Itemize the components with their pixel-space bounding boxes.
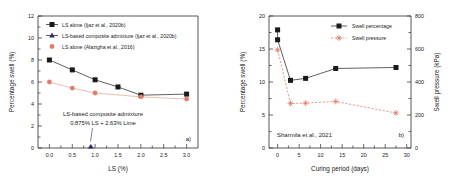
legend-label-ls-alone-alazigha: LS alone (Alazigha et al., 2016) (62, 44, 135, 50)
data-point-marker (275, 27, 280, 32)
annotation-line-2: 0.875% LS + 2.63% Lime (70, 120, 136, 126)
panel-a-yaxis-label: Percentage swell (%) (8, 52, 16, 112)
data-point-marker (116, 84, 121, 89)
panel-a-series-ls-alone-ijaz (47, 58, 189, 98)
panel-b-xtick-30: 30 (404, 152, 410, 158)
data-point-marker (303, 100, 309, 106)
data-point-marker (288, 100, 294, 106)
panel-b-y2tick-400: 400 (415, 79, 424, 85)
panel-a-xtick-3: 1.5 (114, 152, 122, 158)
data-point-marker (333, 66, 338, 71)
panel-b-label: b) (399, 132, 404, 138)
panel-b-ytick-0: 0 (262, 145, 265, 151)
panel-a: 0 2 4 6 8 10 12 (0, 0, 229, 187)
panel-a-xtick-5: 2.5 (160, 152, 168, 158)
panel-b-xtick-10: 10 (318, 152, 324, 158)
legend-marker-circle (50, 44, 55, 49)
data-point-marker (288, 78, 293, 83)
panel-a-xaxis-label: LS (%) (108, 165, 128, 173)
panel-b-xtick-15: 15 (339, 152, 345, 158)
panel-b-y2tick-200: 200 (415, 112, 424, 118)
data-point-marker (139, 94, 144, 99)
legend-marker-star (336, 35, 342, 41)
panel-b-y2tick-800: 800 (415, 13, 424, 19)
legend-marker-square (337, 24, 342, 29)
panel-b-series-swell-pressure (275, 47, 399, 116)
panel-a-series-composite-admixture (88, 144, 94, 149)
data-point-marker (394, 65, 399, 70)
data-point-marker (275, 37, 280, 42)
panel-a-ytick-4: 4 (31, 101, 34, 107)
legend-label-swell-pressure: Swell pressure (352, 35, 386, 41)
panel-a-xtick-6: 3.0 (183, 152, 191, 158)
panel-b-y2tick-600: 600 (415, 46, 424, 52)
panel-a-ytick-10: 10 (28, 35, 34, 41)
panel-b-svg: 0 5 10 15 20 0 200 400 600 (229, 0, 459, 187)
legend-label-swell-percentage: Swell percentage (352, 23, 392, 29)
figure-container: 0 2 4 6 8 10 12 (0, 0, 459, 187)
data-point-marker (88, 144, 94, 149)
panel-b-ytick-15: 15 (259, 46, 265, 52)
panel-a-ytick-8: 8 (31, 57, 34, 63)
panel-a-ytick-6: 6 (31, 79, 34, 85)
panel-a-series-ls-alone-alazigha (47, 80, 189, 102)
annotation-line-1: LS-based composite admixture (63, 111, 143, 117)
panel-b-y-ticks-left: 0 5 10 15 20 (259, 13, 273, 151)
data-point-marker (303, 76, 308, 81)
panel-a-xtick-1: 0.5 (69, 152, 77, 158)
panel-b-ytick-20: 20 (259, 13, 265, 19)
data-point-marker (184, 92, 189, 97)
legend-label-composite-admixture: LS-based composite admixture (Ijaz et al… (62, 33, 177, 39)
panel-b-x-ticks: 0 5 10 15 20 25 30 (276, 144, 410, 158)
panel-a-xtick-2: 1.0 (91, 152, 99, 158)
data-point-marker (70, 86, 75, 91)
panel-b-xaxis-label: Curing period (days) (311, 165, 369, 173)
panel-b: 0 5 10 15 20 0 200 400 600 (229, 0, 459, 187)
panel-b-xtick-25: 25 (382, 152, 388, 158)
panel-a-ytick-12: 12 (28, 13, 34, 19)
data-point-marker (184, 97, 189, 102)
data-point-marker (70, 67, 75, 72)
panel-b-y-ticks-right: 0 200 400 600 800 (407, 13, 424, 151)
panel-a-annotation: LS-based composite admixture 0.875% LS +… (63, 111, 143, 142)
legend-marker-square (50, 22, 55, 27)
panel-b-y2tick-0: 0 (415, 145, 418, 151)
panel-b-xtick-0: 0 (276, 152, 279, 158)
panel-a-xtick-0: 0.0 (46, 152, 54, 158)
data-point-marker (93, 77, 98, 82)
panel-b-xtick-20: 20 (361, 152, 367, 158)
panel-b-yaxis-label: Percentage swell (%) (239, 52, 247, 112)
panel-a-label: a) (186, 136, 191, 142)
data-point-marker (333, 98, 339, 104)
panel-a-svg: 0 2 4 6 8 10 12 (0, 0, 229, 187)
data-point-marker (393, 110, 399, 116)
panel-a-ytick-0: 0 (31, 145, 34, 151)
panel-b-ytick-10: 10 (259, 79, 265, 85)
panel-b-source-note: Sharmila et al., 2021 (277, 132, 333, 138)
panel-a-ytick-2: 2 (31, 123, 34, 129)
legend-marker-triangle (49, 33, 55, 38)
panel-a-legend: LS alone (Ijaz et al., 2020b) LS-based c… (46, 22, 177, 50)
panel-b-y2axis-label: Swell pressure (kPa) (433, 53, 441, 112)
data-point-marker (93, 91, 98, 96)
panel-b-legend: Swell percentage Swell pressure (331, 23, 392, 41)
panel-a-y-ticks: 0 2 4 6 8 10 12 (28, 13, 42, 151)
panel-a-x-ticks: 0.0 0.5 1.0 1.5 2.0 2.5 3.0 (46, 144, 191, 158)
data-point-marker (275, 47, 281, 53)
panel-b-ytick-5: 5 (262, 112, 265, 118)
legend-label-ls-alone-ijaz: LS alone (Ijaz et al., 2020b) (62, 22, 126, 28)
panel-a-xtick-4: 2.0 (137, 152, 145, 158)
panel-b-xtick-5: 5 (298, 152, 301, 158)
data-point-marker (47, 58, 52, 63)
data-point-marker (47, 80, 52, 85)
